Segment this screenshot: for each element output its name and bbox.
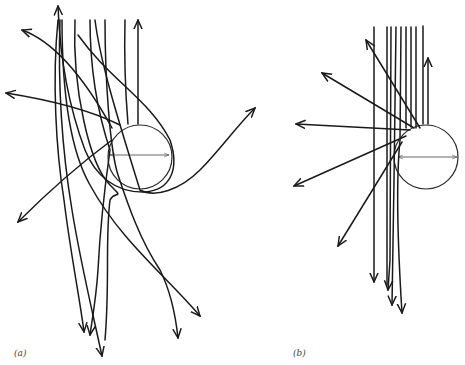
ray-a-5 [62,20,200,316]
ray-diagram [0,0,465,365]
panel-a [6,6,255,356]
ray-b-3 [388,27,391,290]
panel-label-a: (a) [14,348,26,358]
ray-a-loop-2 [95,20,255,193]
panel-b [294,26,458,313]
ray-b-5 [398,27,402,313]
ray-a-2 [125,20,128,124]
ray-b-fan-5 [338,142,402,246]
ray-a-wide-2 [6,93,120,125]
sphere-a [108,125,172,189]
panel-label-b: (b) [293,348,306,358]
ray-b-fan-4 [294,136,406,186]
ray-b-fan-3 [296,124,410,130]
